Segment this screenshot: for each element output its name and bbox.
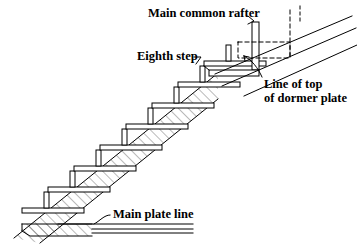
label-line-of-top-row2: of dormer plate xyxy=(264,92,347,106)
label-line-of-top-row1: Line of top xyxy=(264,78,347,92)
label-main-plate-line: Main plate line xyxy=(113,208,194,222)
label-main-common-rafter: Main common rafter xyxy=(148,7,260,21)
main-plate xyxy=(22,224,193,236)
label-eighth-step: Eighth step xyxy=(137,50,198,64)
stair-framing-drawing: Main common rafter Eighth step Line of t… xyxy=(0,0,357,250)
leader-main-plate-line xyxy=(94,215,110,224)
label-line-of-top-of-dormer-plate: Line of top of dormer plate xyxy=(264,78,347,105)
hidden-line-box xyxy=(238,42,290,58)
